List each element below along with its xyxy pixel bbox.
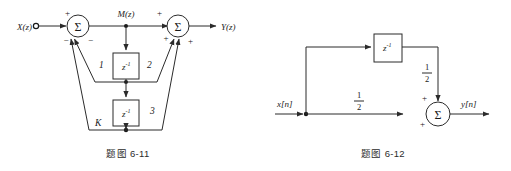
gain-feedforward-denominator: 2 (357, 102, 361, 112)
gain-feedforward: 1 2 (354, 90, 364, 112)
summer-right-sign-plus-0: + (157, 8, 162, 18)
wire-branch-k (71, 39, 89, 130)
summer-out-sign-plus-left: + (420, 119, 425, 129)
label-branch-1: 1 (99, 60, 104, 70)
summer-right-glyph: Σ (175, 20, 182, 34)
label-branch-k: K (94, 118, 102, 128)
summer-out-glyph: Σ (435, 108, 442, 122)
summer-right-sign-plus-1: + (164, 33, 169, 43)
summer-out-sign-plus-top: + (422, 93, 427, 103)
wire-branch-1 (75, 39, 96, 82)
figure-sheet: Σ + − − M(z) Σ + + + X(z) Y(z) z-1 (0, 0, 511, 171)
label-branch-3: 3 (149, 106, 155, 116)
delay-block-1 (374, 34, 402, 62)
figure-6-12-canvas: x[n] 1 2 z-1 1 2 (255, 0, 511, 146)
wire-branch-2 (157, 39, 174, 82)
summer-left-sign-minus-1: − (64, 35, 69, 45)
figure-6-11-canvas: Σ + − − M(z) Σ + + + X(z) Y(z) z-1 (0, 0, 256, 146)
summer-left-sign-plus: + (65, 8, 70, 18)
label-xz: X(z) (16, 22, 32, 32)
wire-branch-3 (162, 39, 179, 130)
summer-left-sign-minus-2: − (88, 35, 93, 45)
input-terminal-icon (33, 23, 38, 28)
gain-feedforward-numerator: 1 (357, 90, 361, 100)
label-mz: M(z) (117, 9, 135, 19)
gain-delay-denominator: 2 (425, 74, 429, 84)
figure-6-12-caption: 题图 6-12 (255, 146, 511, 160)
label-branch-2: 2 (147, 60, 152, 70)
summer-right-sign-plus-2: + (188, 36, 193, 46)
label-xn: x[n] (276, 99, 293, 109)
figure-6-11-caption: 题图 6-11 (0, 146, 256, 160)
node-mz (124, 24, 128, 28)
label-yn: y[n] (460, 99, 477, 109)
gain-delay: 1 2 (422, 62, 432, 84)
label-yz: Y(z) (221, 22, 236, 32)
gain-delay-numerator: 1 (425, 62, 429, 72)
summer-left-glyph: Σ (75, 20, 82, 34)
